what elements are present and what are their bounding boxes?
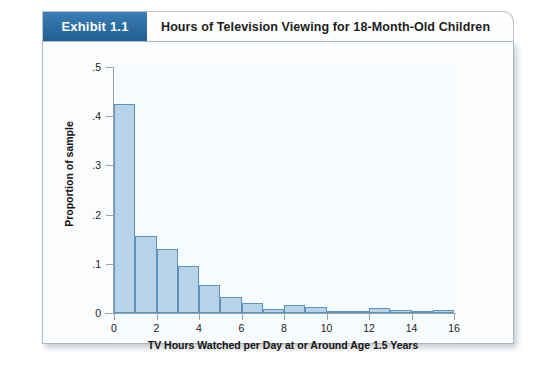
x-tick-label: 8: [269, 322, 299, 334]
exhibit-title: Hours of Television Viewing for 18-Month…: [147, 12, 513, 41]
y-tick-mark: [106, 165, 113, 166]
x-tick-label: 4: [184, 322, 214, 334]
y-tick-mark: [106, 313, 113, 314]
x-tick-mark: [412, 314, 413, 320]
y-tick-label: .1: [69, 258, 101, 270]
x-tick-mark: [242, 314, 243, 320]
x-tick-mark: [199, 314, 200, 320]
exhibit-badge: Exhibit 1.1: [43, 12, 147, 41]
exhibit-panel: .5.4.3.2.10 0246810121416 Proportion of …: [42, 41, 514, 344]
x-axis-line: [105, 313, 456, 314]
exhibit-figure: Exhibit 1.1 Hours of Television Viewing …: [0, 0, 557, 387]
histogram-bar: [284, 305, 305, 313]
x-tick-label: 10: [312, 322, 342, 334]
y-tick-label: 0: [69, 307, 101, 319]
x-tick-mark: [327, 314, 328, 320]
y-axis-title: Proportion of sample: [63, 94, 75, 254]
x-tick-label: 14: [397, 322, 427, 334]
y-axis-line: [113, 67, 114, 314]
y-tick-label: .5: [69, 61, 101, 73]
histogram-bar: [178, 266, 199, 313]
x-tick-label: 0: [99, 322, 129, 334]
histogram-bar: [135, 236, 156, 313]
x-tick-label: 12: [354, 322, 384, 334]
exhibit-header: Exhibit 1.1 Hours of Television Viewing …: [42, 11, 514, 41]
x-axis-title: TV Hours Watched per Day at or Around Ag…: [83, 339, 483, 351]
histogram-bar: [220, 297, 241, 313]
histogram-bar: [157, 249, 178, 313]
histogram-bar: [242, 303, 263, 313]
x-tick-label: 6: [227, 322, 257, 334]
y-tick-mark: [106, 215, 113, 216]
y-tick-mark: [106, 116, 113, 117]
x-tick-label: 2: [142, 322, 172, 334]
histogram-chart: .5.4.3.2.10 0246810121416 Proportion of …: [43, 42, 515, 345]
x-tick-mark: [157, 314, 158, 320]
y-tick-mark: [106, 67, 113, 68]
histogram-bar: [199, 285, 220, 313]
x-tick-mark: [114, 314, 115, 320]
x-tick-mark: [369, 314, 370, 320]
x-tick-mark: [284, 314, 285, 320]
histogram-bar: [114, 104, 135, 313]
x-tick-mark: [454, 314, 455, 320]
y-tick-mark: [106, 264, 113, 265]
x-tick-label: 16: [439, 322, 469, 334]
